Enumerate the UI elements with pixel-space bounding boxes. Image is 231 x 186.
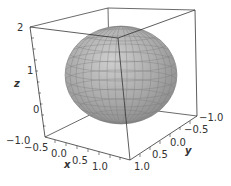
y-tick-neg1: −1.0 [199,112,223,123]
x-tick-0: 0.0 [51,148,67,159]
y-tick-1: 1.0 [134,161,150,172]
x-tick-05: 0.5 [72,155,88,166]
y-tick-0: 0.0 [170,137,186,148]
z-tick-2: 2 [17,22,23,33]
3d-plot: 2 1 0 z −1.0 −0.5 0.0 0.5 1.0 x 1.0 0.5 … [0,0,231,186]
z-axis-label: z [13,78,20,89]
ellipsoid-surface [65,26,177,124]
y-axis-label: y [185,145,192,156]
y-tick-05: 0.5 [152,149,168,160]
x-tick-neg05: −0.5 [24,142,48,153]
y-tick-neg05: −0.5 [184,124,208,135]
z-tick-1: 1 [27,65,33,76]
x-tick-1: 1.0 [92,161,108,172]
x-axis-label: x [63,159,71,170]
z-tick-0: 0 [33,104,39,115]
